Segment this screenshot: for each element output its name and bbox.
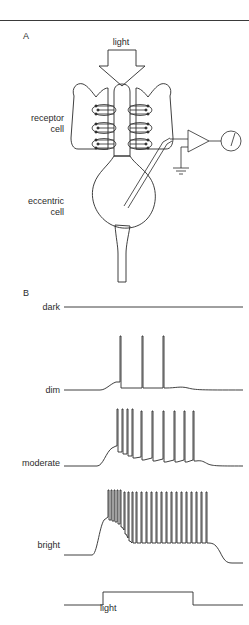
trace-moderate (64, 409, 243, 466)
eccentric-cell-axon (115, 225, 130, 282)
microvilli-row-right-2 (128, 123, 152, 134)
microvilli-group (92, 105, 152, 150)
figure-root: A receptor cell eccentric cell light B d… (0, 0, 249, 625)
rhabdom-column (114, 84, 130, 156)
microvilli-row-right-1 (128, 105, 152, 116)
microvilli-row-right-3 (128, 139, 152, 150)
trace-dim (64, 336, 243, 390)
microvilli-row-left-2 (92, 123, 116, 134)
trace-bright (64, 490, 243, 563)
figure-svg (0, 0, 249, 625)
meter-icon (221, 131, 241, 151)
amplifier-circuit (170, 130, 241, 174)
microvilli-row-left-1 (92, 105, 116, 116)
ground-icon (173, 168, 189, 174)
eccentric-cell-soma (92, 156, 155, 228)
microvilli-row-left-3 (92, 139, 116, 150)
stimulus-bar-trace (64, 592, 243, 605)
receptor-cell-left-lobe (71, 84, 108, 149)
light-arrow-icon (99, 50, 145, 86)
